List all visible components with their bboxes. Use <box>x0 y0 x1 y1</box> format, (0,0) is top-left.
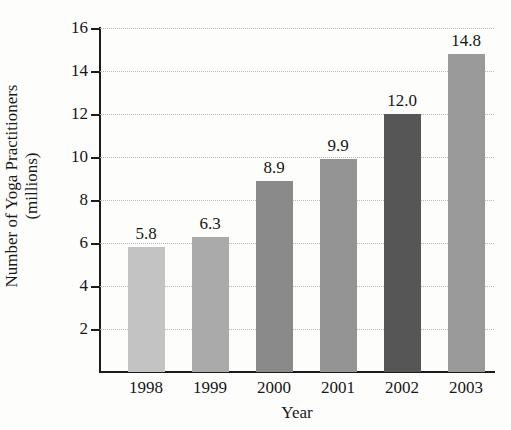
y-axis-tick <box>91 28 100 30</box>
bar-value-label: 5.8 <box>116 225 176 242</box>
y-axis-tick <box>91 243 100 245</box>
bar <box>384 114 421 372</box>
x-axis-title: Year <box>100 404 494 421</box>
y-axis-tick-label: 4 <box>48 277 88 294</box>
y-axis-tick <box>91 286 100 288</box>
gridline <box>100 200 494 201</box>
bar <box>320 159 357 372</box>
y-axis-tick <box>91 200 100 202</box>
x-axis-tick-label: 2001 <box>306 379 370 396</box>
y-axis-tick-label: 8 <box>48 191 88 208</box>
gridline <box>100 71 494 72</box>
x-axis-tick-label: 2000 <box>242 379 306 396</box>
y-axis-tick-label: 16 <box>48 19 88 36</box>
y-axis-title-line2: (millions) <box>23 84 43 287</box>
y-axis-title-line1: Number of Yoga Practitioners <box>3 84 22 287</box>
bar-value-label: 14.8 <box>436 32 496 49</box>
bar <box>192 237 229 372</box>
bar-value-label: 8.9 <box>244 159 304 176</box>
y-axis-tick <box>91 157 100 159</box>
y-axis-tick <box>91 114 100 116</box>
y-axis-tick-label: 12 <box>48 105 88 122</box>
bar-value-label: 6.3 <box>180 215 240 232</box>
x-axis-tick-label: 1998 <box>114 379 178 396</box>
y-axis-tick-label: 6 <box>48 234 88 251</box>
bar <box>256 181 293 372</box>
y-axis-tick-label: 14 <box>48 62 88 79</box>
bar <box>448 54 485 372</box>
gridline <box>100 114 494 115</box>
y-axis-title: Number of Yoga Practitioners (millions) <box>0 0 46 372</box>
x-axis-tick-label: 1999 <box>178 379 242 396</box>
y-axis-tick-label: 10 <box>48 148 88 165</box>
gridline <box>100 28 494 29</box>
gridline <box>100 243 494 244</box>
x-axis-tick-label: 2002 <box>370 379 434 396</box>
x-axis-tick-label: 2003 <box>434 379 498 396</box>
y-axis-tick-label: 2 <box>48 320 88 337</box>
bar-chart: Number of Yoga Practitioners (millions) … <box>0 0 511 430</box>
bar-value-label: 9.9 <box>308 137 368 154</box>
y-axis-tick <box>91 71 100 73</box>
y-axis-tick <box>91 329 100 331</box>
plot-area <box>100 28 494 372</box>
bar-value-label: 12.0 <box>372 92 432 109</box>
bar <box>128 247 165 372</box>
